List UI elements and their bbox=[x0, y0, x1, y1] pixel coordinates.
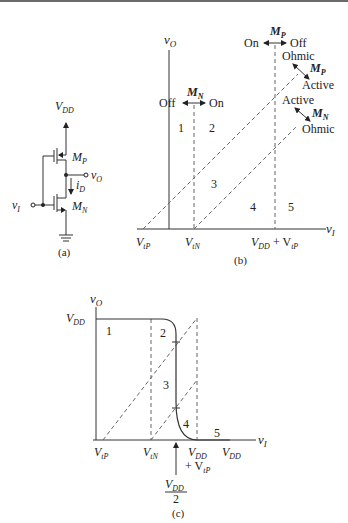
b-mp-diag-label: MP bbox=[309, 61, 326, 77]
b-region-3: 3 bbox=[211, 177, 217, 191]
c-tick-vtp: VtP bbox=[94, 445, 109, 461]
b-tick-vtn: VtN bbox=[185, 235, 201, 251]
c-x-axis-label: vI bbox=[258, 432, 268, 449]
c-region-5: 5 bbox=[214, 426, 220, 440]
c-mn-boundary bbox=[151, 380, 197, 440]
output-terminal bbox=[84, 173, 88, 177]
c-vdd-level-label: VDD bbox=[66, 311, 85, 327]
c-region-4: 4 bbox=[183, 417, 189, 431]
c-region-1: 1 bbox=[106, 324, 112, 338]
vo-label: vO bbox=[91, 168, 102, 184]
b-mn-label: MN bbox=[186, 85, 205, 101]
c-region-3: 3 bbox=[163, 378, 169, 392]
input-node bbox=[41, 203, 45, 207]
caption-c: (c) bbox=[172, 507, 185, 520]
cmos-inverter-figure: VDD MP vO iD MN vI bbox=[0, 0, 348, 523]
b-mp-label: MP bbox=[269, 24, 286, 40]
c-midpoint-denominator: 2 bbox=[173, 492, 179, 506]
regions-plot-b: vO vI MN Off On MP On Off Ohmic MP Activ… bbox=[136, 24, 336, 267]
b-mp-off: Off bbox=[290, 36, 306, 50]
c-tick-vtn: VtN bbox=[143, 445, 159, 461]
b-mn-boundary bbox=[194, 125, 298, 229]
b-mp-active: Active bbox=[302, 78, 334, 92]
c-y-axis-label: vO bbox=[90, 291, 103, 308]
b-region-2: 2 bbox=[209, 121, 215, 135]
b-tick-vtp: VtP bbox=[136, 235, 151, 251]
b-x-axis-label: vI bbox=[326, 221, 336, 238]
mp-label: MP bbox=[71, 150, 87, 166]
vdd-label: VDD bbox=[55, 99, 74, 115]
c-midpoint-numerator: VDD bbox=[165, 477, 184, 493]
b-mn-diag-label: MN bbox=[311, 106, 330, 122]
c-tick-vdd: VDD bbox=[222, 445, 241, 461]
c-tick-plus-vtp: + VtP bbox=[185, 459, 210, 475]
b-mn-diag-arrow-icon bbox=[295, 108, 310, 121]
caption-a: (a) bbox=[58, 246, 71, 259]
b-mn-active: Active bbox=[282, 93, 314, 107]
id-label: iD bbox=[76, 178, 85, 194]
caption-b: (b) bbox=[234, 254, 247, 267]
pmos-source-arrow-icon bbox=[58, 152, 63, 158]
b-y-axis-label: vO bbox=[164, 32, 177, 49]
b-mn-off: Off bbox=[159, 96, 175, 110]
b-tick-vdd-vtp: VDD + VtP bbox=[251, 235, 298, 251]
b-mn-ohmic: Ohmic bbox=[302, 122, 335, 136]
mn-label: MN bbox=[71, 199, 88, 215]
b-region-4: 4 bbox=[250, 200, 256, 214]
b-mp-on: On bbox=[244, 36, 259, 50]
vi-label: vI bbox=[12, 198, 20, 214]
c-region-2: 2 bbox=[160, 326, 166, 340]
b-region-5: 5 bbox=[288, 200, 294, 214]
circuit-schematic-a: VDD MP vO iD MN vI bbox=[12, 99, 102, 259]
b-region-1: 1 bbox=[178, 121, 184, 135]
input-terminal bbox=[31, 203, 35, 207]
vtc-plot-c: vO vI VDD 1 2 3 4 5 VtP VtN VDD + VtP VD… bbox=[66, 291, 268, 520]
nmos-source-arrow-icon bbox=[61, 207, 66, 213]
b-mp-diag-arrow-icon bbox=[293, 64, 309, 79]
b-mn-on: On bbox=[209, 96, 224, 110]
